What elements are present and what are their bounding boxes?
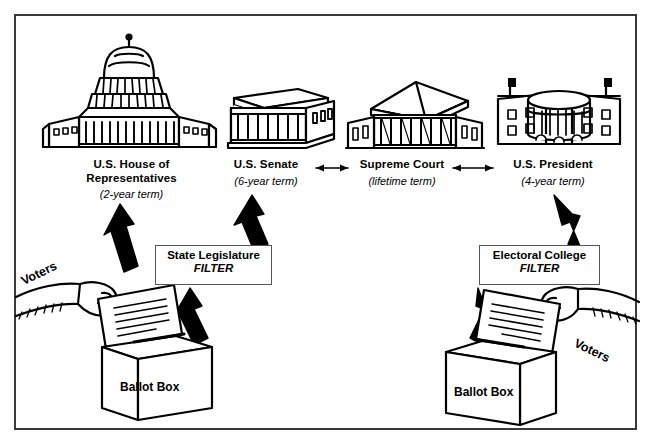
ballot-box-left-label: Ballot Box — [120, 380, 179, 394]
branch-term-house: (2-year term) — [44, 188, 219, 201]
branch-label-senate: U.S. Senate (6-year term) — [211, 158, 321, 188]
ballot-box-right-label: Ballot Box — [454, 385, 513, 399]
filter-subtitle-state-legislature: FILTER — [163, 262, 264, 275]
diagram-artwork — [16, 16, 639, 432]
arrow-electoral-college-to-president — [554, 195, 582, 251]
capitol-dome-building-icon — [43, 33, 216, 147]
senate-colonnade-building-icon — [228, 89, 334, 148]
connector-supreme-court-president — [453, 165, 493, 172]
white-house-building-icon — [498, 78, 620, 144]
branch-term-supreme-court: (lifetime term) — [346, 175, 458, 188]
branch-name-senate: U.S. Senate — [211, 158, 321, 172]
filter-box-state-legislature: State Legislature FILTER — [155, 245, 272, 285]
branch-label-president: U.S. President (4-year term) — [494, 158, 612, 188]
branch-label-house: U.S. House of Representatives (2-year te… — [44, 158, 219, 201]
branch-term-president: (4-year term) — [494, 175, 612, 188]
filter-box-electoral-college: Electoral College FILTER — [479, 245, 600, 285]
filter-title-electoral-college: Electoral College — [487, 249, 592, 262]
branch-label-supreme-court: Supreme Court (lifetime term) — [346, 158, 458, 188]
filter-title-state-legislature: State Legislature — [163, 249, 264, 262]
branch-name-house: U.S. House of Representatives — [44, 158, 219, 185]
branch-name-supreme-court: Supreme Court — [346, 158, 458, 172]
arrow-ballot-left-to-house — [104, 204, 138, 272]
supreme-court-pediment-building-icon — [346, 82, 484, 148]
branch-name-president: U.S. President — [494, 158, 612, 172]
arrow-state-legislature-to-senate — [234, 195, 268, 251]
branch-term-senate: (6-year term) — [211, 175, 321, 188]
diagram-frame: U.S. House of Representatives (2-year te… — [14, 14, 637, 430]
filter-subtitle-electoral-college: FILTER — [487, 262, 592, 275]
diagram-stage: U.S. House of Representatives (2-year te… — [16, 16, 639, 432]
